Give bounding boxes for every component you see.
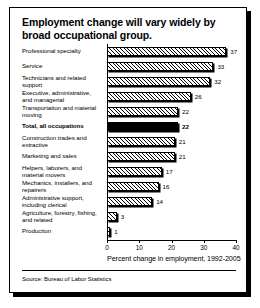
- bar-track: 37: [107, 46, 236, 61]
- bar-value-label: 16: [163, 182, 170, 191]
- bar-row-label: Mechanics, installers, andrepairers: [22, 179, 104, 194]
- bar: [107, 137, 175, 146]
- bar: [107, 92, 191, 101]
- bar-row-label: Service: [22, 62, 104, 69]
- bar-value-label: 1: [114, 227, 117, 236]
- bar-track: 32: [107, 76, 236, 91]
- bar: [107, 107, 178, 116]
- plot-area: Professional specialty37Service33Technic…: [22, 44, 236, 250]
- bar: [107, 197, 152, 206]
- x-axis-title: Percent change in employment, 1992-2005: [107, 254, 236, 263]
- bar-row: Transportation and materialmoving22: [22, 106, 236, 121]
- bar-track: 21: [107, 136, 236, 151]
- bar-value-label: 21: [179, 137, 186, 146]
- x-axis-tick: [204, 240, 205, 243]
- bar-row-label: Technicians and relatedsupport: [22, 74, 104, 89]
- bar-row-label: Helpers, laborers, andmaterial movers: [22, 164, 104, 179]
- bar-track: 16: [107, 181, 236, 196]
- bar-row-label: Professional specialty: [22, 47, 104, 54]
- x-axis-tick-label: 0: [105, 244, 109, 252]
- x-axis-tick: [172, 240, 173, 243]
- bar-row-label: Administrative support,including clerica…: [22, 194, 104, 209]
- bar-row: Production1: [22, 226, 236, 241]
- x-axis-tick-label: 10: [136, 244, 143, 252]
- bar-value-label: 17: [166, 167, 173, 176]
- bar: [107, 182, 159, 191]
- x-axis-tick-label: 30: [200, 244, 207, 252]
- bar-track: 26: [107, 91, 236, 106]
- bar-value-label: 22: [182, 107, 189, 116]
- bar-track: 14: [107, 196, 236, 211]
- bar: [107, 62, 213, 71]
- bar-row-label: Construction trades andextractive: [22, 134, 104, 149]
- bar-track: 33: [107, 61, 236, 76]
- bar: [107, 167, 162, 176]
- bar-row: Agriculture, forestry, fishing,and relat…: [22, 211, 236, 226]
- bar-value-label: 21: [179, 152, 186, 161]
- bar-rows: Professional specialty37Service33Technic…: [22, 44, 236, 240]
- bar: [107, 152, 175, 161]
- bar-track: 17: [107, 166, 236, 181]
- source-divider: [22, 270, 236, 271]
- bar-track: 1: [107, 226, 236, 241]
- bar-row: Construction trades andextractive21: [22, 136, 236, 151]
- x-axis-tick: [236, 240, 237, 243]
- x-axis-tick: [139, 240, 140, 243]
- bar: [107, 77, 210, 86]
- x-axis-tick: [107, 240, 108, 243]
- bar-row-label: Executive, administrative,and managerial: [22, 89, 104, 104]
- bar-track: 22: [107, 106, 236, 121]
- bar-track: 3: [107, 211, 236, 226]
- x-axis-tick-label: 40: [232, 244, 239, 252]
- bar-value-label: 3: [121, 212, 124, 221]
- y-axis-line: [107, 44, 108, 240]
- bar-row-label: Agriculture, forestry, fishing,and relat…: [22, 209, 104, 224]
- bar: [107, 122, 178, 131]
- bar-value-label: 32: [214, 77, 221, 86]
- bar-row: Professional specialty37: [22, 46, 236, 61]
- bar-row-label: Marketing and sales: [22, 152, 104, 159]
- chart-title: Employment change will vary widely by br…: [22, 16, 236, 41]
- bar-value-label: 14: [156, 197, 163, 206]
- source-note: Source: Bureau of Labor Statistics: [22, 275, 111, 283]
- bar-value-label: 37: [230, 47, 237, 56]
- bar-track: 21: [107, 151, 236, 166]
- bar-track: 22: [107, 121, 236, 136]
- bar-row-label: Total, all occupations: [22, 122, 104, 129]
- x-axis-tick-label: 20: [168, 244, 175, 252]
- chart-figure: Employment change will vary widely by br…: [9, 7, 247, 293]
- bar: [107, 212, 117, 221]
- bar-value-label: 22: [182, 122, 189, 131]
- bar-row-label: Transportation and materialmoving: [22, 104, 104, 119]
- bar-value-label: 33: [217, 62, 224, 71]
- bar-value-label: 26: [195, 92, 202, 101]
- bar-row-label: Production: [22, 227, 104, 234]
- bar: [107, 47, 226, 56]
